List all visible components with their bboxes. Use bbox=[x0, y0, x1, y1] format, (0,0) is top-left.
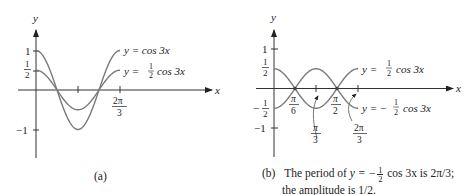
chart-panel-b: y x 1 1 2 − 1 2 −1 π 6 π 2 bbox=[253, 11, 461, 157]
svg-text:cos 3x: cos 3x bbox=[403, 102, 431, 114]
svg-text:1: 1 bbox=[263, 98, 268, 108]
y-tick-1: 1 bbox=[262, 43, 268, 55]
legend-neg-half-cos3x: y = − 1 2 cos 3x bbox=[361, 98, 431, 117]
svg-text:y =: y = bbox=[361, 63, 377, 75]
y-tick-neg1: −1 bbox=[16, 124, 28, 136]
svg-text:−: − bbox=[253, 102, 259, 114]
svg-text:cos 3x: cos 3x bbox=[396, 63, 424, 75]
svg-text:1: 1 bbox=[149, 62, 153, 71]
caption-b-line2: the amplitude is 1/2. bbox=[282, 183, 454, 195]
svg-text:2: 2 bbox=[263, 68, 268, 78]
y-axis-label: y bbox=[270, 11, 276, 23]
x-tick-pi-6: π 6 bbox=[289, 94, 299, 116]
svg-text:y = −: y = − bbox=[361, 102, 387, 114]
svg-text:3: 3 bbox=[357, 135, 362, 145]
x-tick-2pi-3: 2π 3 bbox=[112, 96, 127, 118]
x-axis-label: x bbox=[214, 84, 220, 96]
svg-text:2: 2 bbox=[394, 108, 398, 117]
svg-text:π: π bbox=[291, 94, 296, 104]
svg-text:1: 1 bbox=[394, 98, 398, 107]
caption-a: (a) bbox=[94, 170, 107, 183]
svg-text:y =: y = bbox=[123, 65, 139, 77]
svg-text:2: 2 bbox=[263, 109, 268, 119]
svg-text:1: 1 bbox=[263, 57, 268, 67]
legend-half-cos3x: y = 1 2 cos 3x bbox=[361, 59, 424, 78]
y-axis-label: y bbox=[32, 12, 38, 24]
svg-text:1: 1 bbox=[387, 59, 391, 68]
svg-text:π: π bbox=[333, 94, 338, 104]
y-tick-half: 1 2 bbox=[24, 59, 31, 80]
legend-half-cos3x: y = 1 2 cos 3x bbox=[123, 62, 185, 80]
caption-b-label: (b) bbox=[262, 167, 275, 179]
x-tick-pi-2: π 2 bbox=[331, 94, 341, 116]
svg-text:2π: 2π bbox=[113, 96, 123, 106]
caption-b: (b) The period of y = −12 cos 3x is 2π/3… bbox=[262, 166, 454, 195]
svg-text:3: 3 bbox=[117, 108, 122, 118]
chart-panel-a: y x 1 1 2 −1 2π 3 y = cos 3x y = 1 bbox=[16, 12, 220, 183]
svg-text:2: 2 bbox=[333, 106, 338, 116]
x-tick-pi-3: π 3 bbox=[311, 96, 321, 145]
svg-text:2: 2 bbox=[387, 69, 391, 78]
svg-text:3: 3 bbox=[313, 135, 318, 145]
svg-text:2π: 2π bbox=[354, 123, 364, 133]
caption-b-line1: The period of y = −12 cos 3x is 2π/3; bbox=[284, 167, 454, 179]
x-axis-label: x bbox=[455, 82, 461, 94]
svg-text:2: 2 bbox=[25, 70, 30, 80]
svg-text:2: 2 bbox=[149, 71, 153, 80]
svg-text:π: π bbox=[313, 123, 318, 133]
svg-text:1: 1 bbox=[25, 59, 30, 69]
svg-text:cos 3x: cos 3x bbox=[157, 65, 185, 77]
y-tick-1: 1 bbox=[25, 45, 31, 57]
legend-cos3x: y = cos 3x bbox=[123, 44, 170, 56]
y-tick-half: 1 2 bbox=[262, 57, 269, 78]
y-tick-neg1: −1 bbox=[254, 122, 266, 134]
svg-text:6: 6 bbox=[291, 106, 296, 116]
y-tick-neg-half: − 1 2 bbox=[253, 98, 269, 119]
